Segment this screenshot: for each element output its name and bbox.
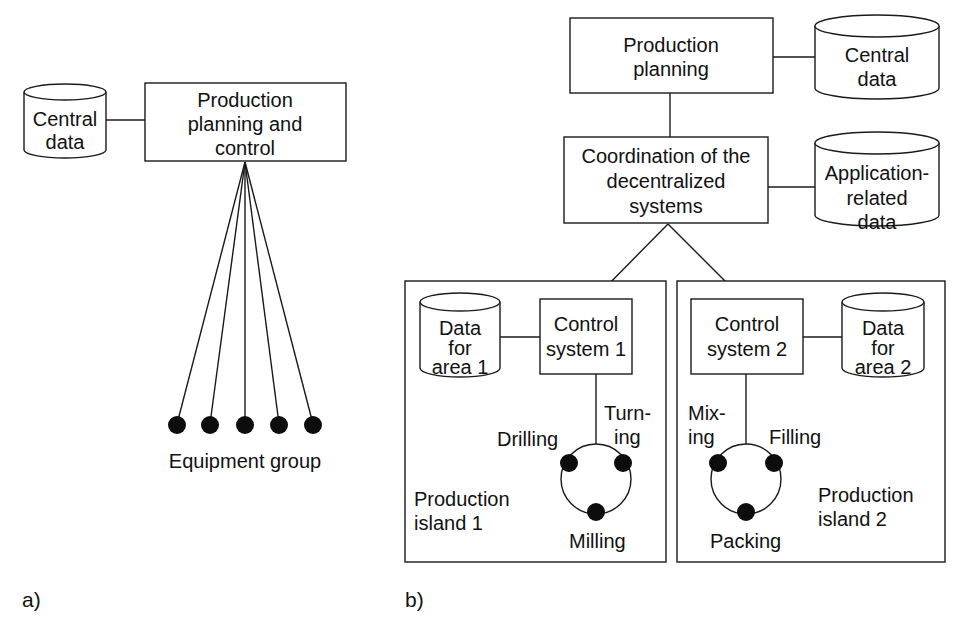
central-data-a-line2: data (46, 131, 86, 153)
application-data-cylinder: Application- related data (815, 132, 939, 233)
station-milling-label: Milling (569, 530, 626, 552)
data-area-1-line3: area 1 (432, 356, 489, 378)
station-drilling-label: Drilling (497, 428, 558, 450)
panel-b-label: b) (405, 588, 424, 611)
data-area-2-line3: area 2 (855, 356, 912, 378)
ppc-line1: Production (197, 89, 293, 111)
island-2-title-line1: Production (818, 484, 914, 506)
panel-b: Production planning Central data Coordin… (405, 15, 945, 611)
station-drilling-dot (560, 454, 578, 472)
coordination-line2: decentralized (607, 170, 726, 192)
equipment-dot-4 (270, 416, 288, 434)
station-packing-label: Packing (710, 530, 781, 552)
production-planning-box: Production planning (570, 18, 773, 93)
production-planning-line2: planning (633, 58, 709, 80)
control-system-2-line1: Control (715, 313, 779, 335)
central-data-b-line1: Central (845, 44, 909, 66)
panel-a: Central data Production planning and con… (22, 83, 346, 611)
island-1-title-line2: island 1 (414, 512, 483, 534)
station-mixing-label-1: Mix- (688, 402, 726, 424)
diagram-canvas: Central data Production planning and con… (0, 0, 963, 636)
station-turning-label-2: ing (614, 426, 641, 448)
production-island-1: Data for area 1 Control system 1 Drillin… (405, 281, 666, 562)
station-milling-dot (587, 503, 605, 521)
control-system-1-box: Control system 1 (540, 299, 632, 374)
station-mixing-label-2: ing (688, 426, 715, 448)
coordination-box: Coordination of the decentralized system… (564, 137, 768, 223)
control-system-2-box: Control system 2 (691, 299, 803, 374)
data-area-2-line1: Data (862, 317, 905, 339)
equipment-group-dots (168, 416, 322, 434)
equipment-group-label: Equipment group (169, 450, 321, 472)
central-data-b-line2: data (858, 68, 898, 90)
coordination-line1: Coordination of the (581, 145, 750, 167)
central-data-a-line1: Central (33, 108, 97, 130)
data-area-1-cylinder: Data for area 1 (420, 293, 500, 378)
island-2-title-line2: island 2 (818, 508, 887, 530)
panel-a-label: a) (22, 588, 41, 611)
control-system-1-line2: system 1 (546, 338, 626, 360)
station-filling-label: Filling (769, 426, 821, 448)
coordination-line3: systems (629, 195, 702, 217)
application-data-line1: Application- (825, 162, 930, 184)
ppc-line3: control (215, 137, 275, 159)
control-system-1-line1: Control (554, 313, 618, 335)
control-system-2-line2: system 2 (707, 338, 787, 360)
data-area-2-cylinder: Data for area 2 (842, 293, 924, 378)
equipment-links (177, 162, 313, 424)
station-turning-label-1: Turn- (604, 402, 651, 424)
central-data-cylinder-a: Central data (24, 84, 106, 158)
equipment-dot-2 (201, 416, 219, 434)
station-mixing-dot (709, 454, 727, 472)
station-filling-dot (765, 454, 783, 472)
production-planning-line1: Production (623, 34, 719, 56)
island-1-title-line1: Production (414, 488, 510, 510)
equipment-dot-5 (304, 416, 322, 434)
ppc-line2: planning and (188, 113, 303, 135)
station-packing-dot (737, 503, 755, 521)
ppc-box: Production planning and control (145, 83, 346, 161)
equipment-dot-3 (236, 416, 254, 434)
equipment-dot-1 (168, 416, 186, 434)
data-area-1-line1: Data (439, 317, 482, 339)
production-island-2: Control system 2 Data for area 2 Mix- in… (677, 281, 945, 562)
application-data-line3: data (858, 211, 898, 233)
station-turning-dot (614, 454, 632, 472)
application-data-line2: related (846, 187, 907, 209)
central-data-cylinder-b: Central data (815, 15, 939, 99)
